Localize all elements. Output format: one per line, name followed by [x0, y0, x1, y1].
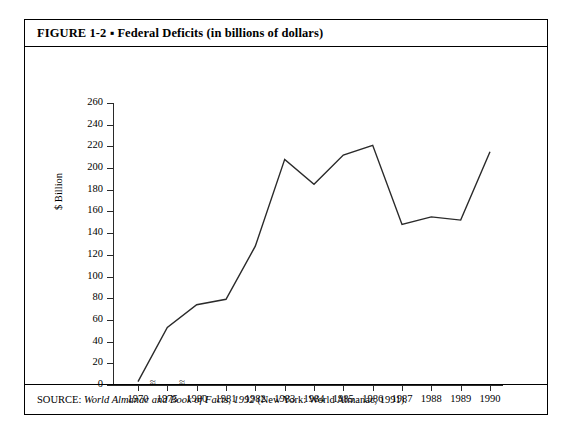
figure-title: FIGURE 1-2 ▪ Federal Deficits (in billio…	[37, 26, 323, 41]
plot-area: $ Billion 020406080100120140160180200220…	[25, 47, 547, 384]
figure-container: FIGURE 1-2 ▪ Federal Deficits (in billio…	[24, 19, 548, 415]
source-suffix: (New York: World Almanac, 1991).	[255, 394, 407, 405]
figure-source-bar: SOURCE: World Almanac and Book of Facts,…	[25, 384, 547, 414]
source-prefix: SOURCE:	[37, 394, 84, 405]
figure-title-bar: FIGURE 1-2 ▪ Federal Deficits (in billio…	[25, 20, 547, 47]
data-line-chart	[25, 47, 547, 384]
source-note: SOURCE: World Almanac and Book of Facts,…	[37, 394, 407, 405]
source-title: World Almanac and Book of Facts, 1992	[84, 394, 255, 405]
deficit-line-series	[138, 145, 490, 381]
